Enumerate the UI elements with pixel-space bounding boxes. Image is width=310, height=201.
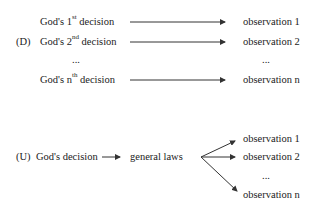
d-decision-1: God's 1st decision — [40, 16, 114, 28]
d-observation-2: observation 2 — [243, 36, 300, 48]
u-observation-1: observation 1 — [243, 133, 300, 145]
d-observation-ellipsis: ... — [262, 54, 270, 66]
d-observation-n: observation n — [243, 74, 300, 86]
arrow-u-obsn — [201, 157, 237, 191]
u-observation-n: observation n — [243, 189, 300, 201]
d-observation-1: observation 1 — [243, 16, 300, 28]
u-observation-ellipsis: ... — [262, 170, 270, 182]
d-model-label: (D) — [16, 36, 31, 48]
u-model-label: (U) — [16, 151, 31, 163]
u-decision: God's decision — [36, 151, 98, 163]
d-decision-2: God's 2nd decision — [40, 36, 117, 48]
d-decision-ellipsis: ... — [72, 54, 80, 66]
d-decision-n: God's nth decision — [40, 74, 115, 86]
u-observation-2: observation 2 — [243, 151, 300, 163]
u-general-laws: general laws — [130, 151, 183, 163]
arrow-u-obs1 — [201, 141, 235, 157]
